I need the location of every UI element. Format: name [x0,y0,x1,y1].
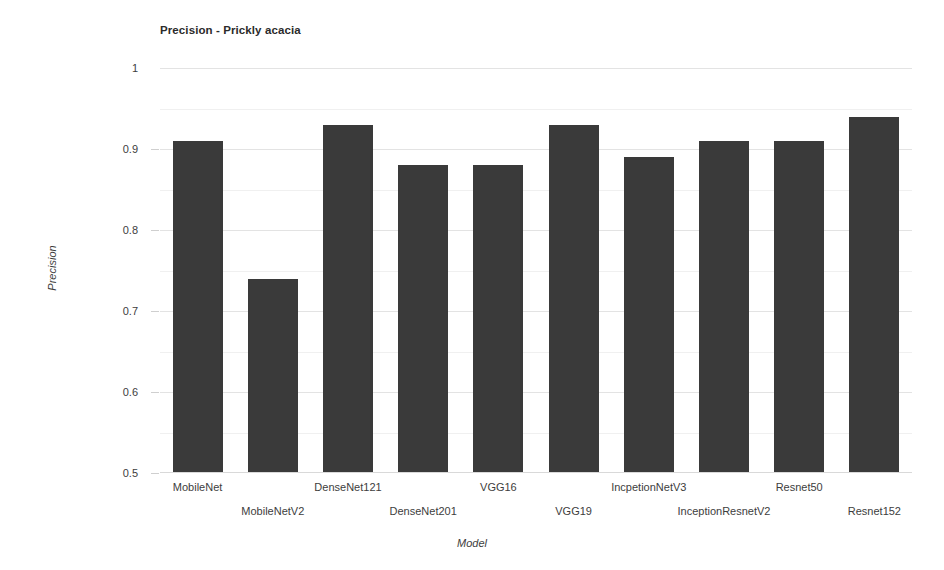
y-axis-tick-label: 0.7 [86,305,138,317]
y-axis-tick [151,311,159,312]
x-axis-tick-label: IncpetionNetV3 [611,481,686,493]
bar [624,157,674,473]
x-axis-tick-label: InceptionResnetV2 [678,505,771,517]
bar [699,141,749,473]
y-axis-tick-label: 1 [86,62,138,74]
x-axis-tick-label: VGG19 [555,505,592,517]
y-axis-tick-label: 0.9 [86,143,138,155]
gridline-major [160,68,912,69]
bar [248,279,298,473]
y-axis-tick [151,149,159,150]
x-axis-tick-label: Resnet50 [776,481,823,493]
bar [473,165,523,473]
x-axis-tick-label: Resnet152 [848,505,901,517]
plot-area [160,68,912,473]
bar [398,165,448,473]
y-axis-tick [151,230,159,231]
bar [849,117,899,473]
bar [774,141,824,473]
x-axis-title: Model [0,537,944,549]
axis-baseline [160,472,912,473]
y-axis-tick-label: 0.6 [86,386,138,398]
y-axis-tick [151,473,159,474]
bar [173,141,223,473]
bar [323,125,373,473]
gridline-minor [160,109,912,110]
x-axis-tick-label: DenseNet121 [314,481,381,493]
x-axis-tick-label: DenseNet201 [390,505,457,517]
y-axis-tick-label: 0.5 [86,467,138,479]
x-axis-tick-label: VGG16 [480,481,517,493]
y-axis-title: Precision [46,208,58,328]
bar [549,125,599,473]
x-axis-tick-label: MobileNet [173,481,223,493]
bar-chart: Precision - Prickly acacia Precision 10.… [0,0,944,570]
chart-title: Precision - Prickly acacia [160,24,301,36]
y-axis-tick-label: 0.8 [86,224,138,236]
x-axis-tick-label: MobileNetV2 [241,505,304,517]
y-axis-tick [151,392,159,393]
